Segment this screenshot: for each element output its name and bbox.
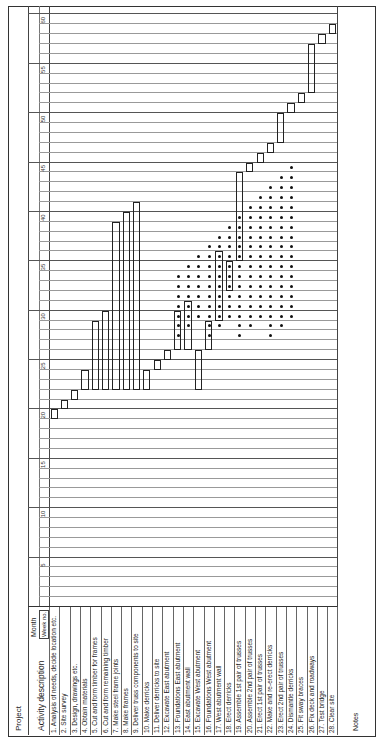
activity-label: 26. Fix deck and roadways [307, 656, 317, 733]
week-tick-label: 55 [40, 66, 46, 73]
float-dot [228, 226, 231, 229]
float-dot [249, 275, 252, 278]
float-dot [208, 315, 211, 318]
float-dot [290, 206, 293, 209]
float-dot [177, 305, 180, 308]
float-dot [187, 315, 190, 318]
activity-bar [267, 143, 274, 153]
activity-label: 8. Make frames [121, 688, 131, 733]
activity-bar [133, 202, 140, 390]
float-dot [228, 236, 231, 239]
float-dot [259, 226, 262, 229]
week-gridline [39, 596, 337, 597]
float-dot [259, 315, 262, 318]
week-gridline [39, 221, 337, 222]
activity-bar [195, 350, 202, 390]
activity-bar [61, 400, 68, 410]
float-dot [197, 305, 200, 308]
float-dot [259, 206, 262, 209]
float-dot [228, 305, 231, 308]
float-dot [280, 206, 283, 209]
activity-bar [257, 153, 264, 163]
week-tick-label: 40 [40, 214, 46, 221]
week-gridline [39, 280, 337, 281]
week-gridline [39, 93, 337, 94]
week-gridline [39, 497, 337, 498]
week-gridline [39, 23, 337, 24]
float-dot [208, 265, 211, 268]
activity-label: 10. Make derricks [142, 682, 152, 733]
float-dot [218, 315, 221, 318]
week-gridline [39, 241, 337, 242]
major-week-gridline [28, 557, 337, 558]
activity-label: 23. Erect 2nd pair of trusses [276, 652, 286, 733]
major-week-gridline [28, 162, 337, 163]
float-dot [249, 206, 252, 209]
float-dot [290, 305, 293, 308]
activity-label: 27. Test bridge [317, 690, 327, 733]
major-week-gridline [28, 359, 337, 360]
week-gridline [39, 43, 337, 44]
week-gridline [39, 478, 337, 479]
week-tick-label: 50 [40, 116, 46, 123]
float-dot [208, 295, 211, 298]
activity-label: 18. Erect derricks [224, 682, 234, 733]
float-dot [208, 275, 211, 278]
week-gridline [39, 547, 337, 548]
activity-label: 25. Fit sway braces [296, 677, 306, 733]
float-dot [280, 315, 283, 318]
major-week-gridline [28, 409, 337, 410]
week-tick-label: 45 [40, 165, 46, 172]
bar-chart-sheet: ProjectActivity descriptionMonthWeek no.… [0, 0, 383, 743]
float-dot [249, 285, 252, 288]
week-gridline [39, 399, 337, 400]
notes-label: Notes [351, 713, 361, 731]
float-dot [280, 236, 283, 239]
float-dot [218, 285, 221, 288]
activity-bar [123, 212, 130, 390]
week-gridline [39, 418, 337, 419]
activity-label: 12. Excavate East abutment [162, 652, 172, 733]
activity-label: 2. Site survey [59, 694, 69, 733]
activity-label: 28. Clear site [327, 695, 337, 733]
week-gridline [39, 468, 337, 469]
week-gridline [39, 270, 337, 271]
activity-bar [329, 24, 336, 34]
week-tick-label: 25 [40, 362, 46, 369]
activity-label: 14. East abutment wall [183, 667, 193, 733]
float-dot [290, 295, 293, 298]
week-tick-label: 20 [40, 412, 46, 419]
activity-label: 11. Deliver derricks to site [152, 659, 162, 733]
week-gridline [39, 251, 337, 252]
activity-label: 22. Make and re-erect derricks [265, 645, 275, 733]
activity-bar [287, 103, 294, 113]
activity-label: 1. Analysis of needs, decide location et… [49, 616, 59, 733]
week-gridline [39, 191, 337, 192]
float-dot [280, 265, 283, 268]
float-dot [280, 196, 283, 199]
float-dot [177, 295, 180, 298]
week-gridline [39, 537, 337, 538]
float-dot [177, 285, 180, 288]
float-dot [177, 315, 180, 318]
activity-bar [92, 321, 99, 390]
week-gridline [39, 567, 337, 568]
float-dot [280, 295, 283, 298]
week-gridline [39, 33, 337, 34]
activity-label: 17. West abutment wall [214, 666, 224, 733]
activity-label: 6. Cut and form remaining timber [101, 638, 111, 733]
week-gridline [39, 517, 337, 518]
week-gridline [39, 428, 337, 429]
week-gridline [39, 201, 337, 202]
float-dot [218, 236, 221, 239]
major-week-gridline [28, 14, 337, 15]
float-dot [187, 305, 190, 308]
float-dot [280, 275, 283, 278]
week-gridline [39, 488, 337, 489]
week-tick-label: 10 [40, 511, 46, 518]
float-dot [249, 226, 252, 229]
activity-label: 4. Obtain materials [80, 678, 90, 733]
activity-bar [308, 44, 315, 93]
float-dot [259, 216, 262, 219]
float-dot [259, 236, 262, 239]
